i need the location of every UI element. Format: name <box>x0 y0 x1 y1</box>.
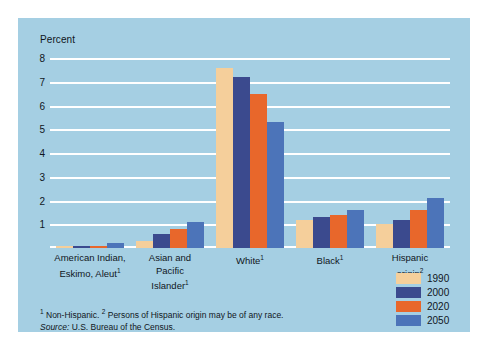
category-footnote-marker: 1 <box>340 254 344 261</box>
legend-label: 2000 <box>427 287 449 298</box>
bar[interactable] <box>250 94 267 248</box>
bar[interactable] <box>376 224 393 248</box>
footnote-text-2: Persons of Hispanic origin may be of any… <box>105 310 283 320</box>
category-labels: American Indian,Eskimo, Aleut1Asian andP… <box>50 252 450 293</box>
y-axis-tick-label: 8 <box>25 53 45 64</box>
bar[interactable] <box>170 229 187 248</box>
footnote-line-1: 1 Non-Hispanic. 2 Persons of Hispanic or… <box>40 306 370 321</box>
bar[interactable] <box>330 215 347 248</box>
y-axis-tick-label: 6 <box>25 100 45 111</box>
y-axis-tick-label: 3 <box>25 171 45 182</box>
category-footnote-marker: 1 <box>117 267 121 274</box>
source-line: Source: U.S. Bureau of the Census. <box>40 321 370 333</box>
y-axis-tick-label: 7 <box>25 76 45 87</box>
bar-groups <box>50 58 450 248</box>
y-axis-tick-label: 4 <box>25 148 45 159</box>
y-axis-tick-label: 5 <box>25 124 45 135</box>
y-axis-tick-label: 2 <box>25 195 45 206</box>
legend-swatch <box>396 273 421 284</box>
legend-item[interactable]: 2000 <box>396 286 449 299</box>
bar[interactable] <box>313 217 330 248</box>
bar-group <box>210 58 290 248</box>
legend-item[interactable]: 1990 <box>396 272 449 285</box>
bar[interactable] <box>107 243 124 248</box>
category-label: Black1 <box>290 252 370 293</box>
bar[interactable] <box>153 234 170 248</box>
y-axis-title: Percent <box>40 34 75 45</box>
bar[interactable] <box>73 246 90 248</box>
legend-swatch <box>396 301 421 312</box>
bar-group <box>370 58 450 248</box>
legend-label: 2050 <box>427 315 449 326</box>
bar[interactable] <box>347 210 364 248</box>
bar[interactable] <box>136 241 153 248</box>
bar[interactable] <box>393 220 410 249</box>
bar[interactable] <box>90 246 107 248</box>
footnote-text-1: Non-Hispanic. <box>44 310 102 320</box>
category-label: Asian andPacificIslander1 <box>130 252 210 293</box>
source-label: Source: <box>40 322 69 332</box>
bar[interactable] <box>267 122 284 248</box>
plot-area: 12345678 <box>50 58 450 248</box>
legend-item[interactable]: 2050 <box>396 314 449 327</box>
bar[interactable] <box>233 77 250 248</box>
bar[interactable] <box>410 210 427 248</box>
legend-swatch <box>396 315 421 326</box>
bar[interactable] <box>296 220 313 249</box>
legend-item[interactable]: 2020 <box>396 300 449 313</box>
category-label: American Indian,Eskimo, Aleut1 <box>50 252 130 293</box>
footnotes-block: 1 Non-Hispanic. 2 Persons of Hispanic or… <box>40 306 370 333</box>
chart-figure: Percent 12345678 American Indian,Eskimo,… <box>18 18 470 332</box>
bar-group <box>290 58 370 248</box>
category-footnote-marker: 1 <box>185 279 189 286</box>
bar[interactable] <box>427 198 444 248</box>
category-label: White1 <box>210 252 290 293</box>
bar[interactable] <box>216 68 233 249</box>
bar-group <box>130 58 210 248</box>
chart-legend: 1990200020202050 <box>396 272 449 328</box>
bar-group <box>50 58 130 248</box>
y-axis-tick-label: 1 <box>25 219 45 230</box>
source-text: U.S. Bureau of the Census. <box>69 322 175 332</box>
bar[interactable] <box>187 222 204 248</box>
category-footnote-marker: 1 <box>260 254 264 261</box>
legend-label: 1990 <box>427 273 449 284</box>
bar[interactable] <box>56 246 73 248</box>
legend-swatch <box>396 287 421 298</box>
legend-label: 2020 <box>427 301 449 312</box>
